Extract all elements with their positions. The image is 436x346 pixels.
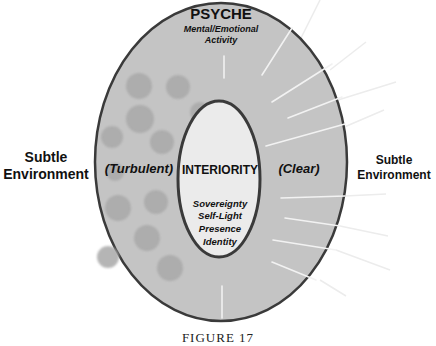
subtle-environment-left-line-1: Subtle: [0, 149, 92, 166]
psyche-subtitle-line-2: Activity: [161, 35, 281, 46]
clear-label: (Clear): [269, 161, 329, 176]
figure-caption: FIGURE 17: [168, 330, 268, 346]
quality-self-light: Self-Light: [180, 210, 260, 222]
interiority-title: INTERIORITY: [174, 163, 266, 177]
turbulent-label: (Turbulent): [100, 161, 178, 176]
quality-presence: Presence: [180, 223, 260, 235]
subtle-environment-left-line-2: Environment: [0, 166, 92, 183]
quality-identity: Identity: [180, 236, 260, 248]
subtle-environment-right-line-1: Subtle: [352, 153, 436, 168]
quality-sovereignty: Sovereignty: [180, 198, 260, 210]
psyche-title: PSYCHE: [171, 6, 271, 22]
psyche-subtitle-line-1: Mental/Emotional: [161, 24, 281, 35]
subtle-environment-right-line-2: Environment: [352, 168, 436, 183]
